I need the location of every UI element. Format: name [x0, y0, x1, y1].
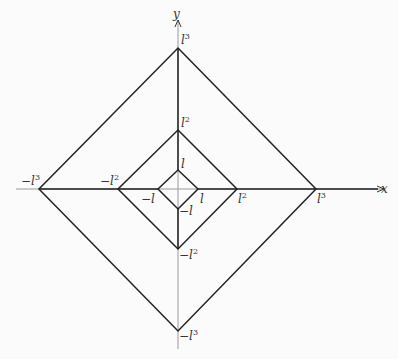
label-neg-l-x: −l: [141, 192, 155, 206]
diamond-diagram: x y l −l −l l l2 −l2 −l2 l2 l3 −l3 −l3 l…: [0, 0, 398, 359]
label-neg-l2-y: −l2: [179, 247, 198, 262]
label-neg-l3-x: −l3: [21, 173, 40, 188]
label-pos-l3-y: l3: [181, 32, 190, 47]
label-neg-l-y: −l: [179, 204, 193, 218]
label-pos-l2-x: l2: [238, 191, 247, 206]
y-axis-label: y: [172, 7, 180, 21]
label-pos-l2-y: l2: [181, 115, 190, 130]
label-pos-l-x: l: [200, 192, 204, 206]
label-neg-l3-y: −l3: [179, 328, 198, 343]
label-pos-l3-x: l3: [317, 191, 326, 206]
label-pos-l-y: l: [181, 157, 185, 171]
x-axis-label: x: [381, 182, 388, 196]
label-neg-l2-x: −l2: [100, 173, 119, 188]
